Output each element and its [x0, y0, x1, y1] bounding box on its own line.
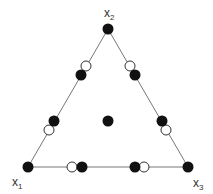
simplex-diagram: x1x2x3 [0, 0, 213, 194]
filled-design-point [103, 24, 114, 35]
open-design-point [44, 125, 54, 135]
filled-design-point [130, 162, 141, 173]
simplex-triangle [28, 29, 188, 167]
filled-design-point [76, 70, 87, 81]
filled-design-point [77, 162, 88, 173]
vertex-label-x1: x1 [12, 175, 23, 191]
open-design-point [161, 125, 171, 135]
filled-design-point [49, 116, 60, 127]
filled-design-point [130, 70, 141, 81]
filled-design-point [23, 162, 34, 173]
open-design-point [81, 61, 91, 71]
open-design-point [67, 162, 77, 172]
filled-design-point [103, 116, 114, 127]
open-design-point [125, 61, 135, 71]
filled-design-point [183, 162, 194, 173]
vertex-label-x3: x3 [193, 176, 204, 192]
filled-design-point [157, 116, 168, 127]
vertex-label-x2: x2 [104, 6, 115, 22]
